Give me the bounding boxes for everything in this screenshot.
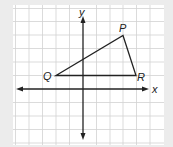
y-axis-down-arrow-icon — [81, 133, 86, 140]
y-axis-label: y — [78, 6, 86, 18]
y-axis: y — [78, 6, 86, 140]
vertex-label-p: P — [119, 22, 127, 34]
coordinate-plane: x y P Q R — [0, 0, 173, 147]
vertex-label-r: R — [137, 71, 145, 83]
triangle-pqr: P Q R — [43, 22, 145, 83]
x-axis-right-arrow-icon — [142, 87, 149, 92]
vertex-label-q: Q — [43, 70, 52, 82]
x-axis-left-arrow-icon — [16, 87, 23, 92]
x-axis-label: x — [151, 83, 158, 95]
